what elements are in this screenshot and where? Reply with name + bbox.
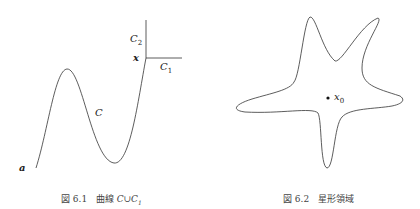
- caption-figure-6-1: 図 6.1 曲線 C∪C1: [61, 195, 142, 206]
- caption-text: 曲線: [96, 194, 114, 204]
- label-c1: C1: [160, 62, 172, 75]
- curve-c: [36, 58, 146, 168]
- figures-canvas: [0, 0, 420, 209]
- label-x0: x0: [334, 92, 344, 105]
- point-x0: [326, 96, 329, 99]
- label-x: x: [133, 53, 139, 63]
- caption-math: C∪C1: [117, 194, 142, 204]
- caption-number: 図 6.2: [283, 194, 309, 204]
- caption-figure-6-2: 図 6.2 星形領域: [283, 195, 354, 204]
- caption-text: 星形領域: [318, 194, 354, 204]
- label-c2: C2: [130, 34, 142, 47]
- label-a: a: [19, 163, 25, 173]
- star-domain-boundary: [236, 17, 402, 168]
- caption-number: 図 6.1: [61, 194, 87, 204]
- label-c: C: [95, 108, 103, 118]
